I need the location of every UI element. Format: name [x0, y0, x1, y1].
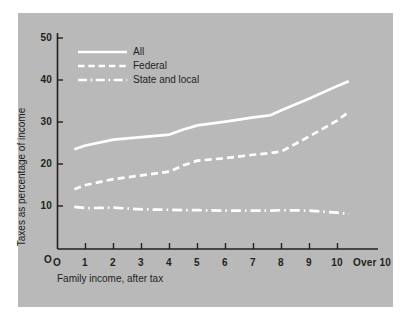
x-tick-label-3: 3 — [138, 258, 144, 268]
y-tick-label-10: 10 — [32, 201, 52, 211]
y-axis-title: Taxes as percentage of income — [17, 102, 27, 252]
x-tick-label-5: 5 — [194, 258, 200, 268]
legend-label-state-and-local: State and local — [133, 75, 199, 85]
x-tick-label-over-10: Over 10 — [353, 258, 391, 268]
y-tick-label-30: 30 — [32, 117, 52, 127]
x-tick-label-10: 10 — [331, 258, 343, 268]
x-tick-label-1: 1 — [82, 258, 88, 268]
y-axis-ticks — [58, 38, 64, 206]
y-tick-label-0: O — [32, 255, 52, 265]
series-line-all — [74, 81, 348, 149]
x-tick-label-8: 8 — [278, 258, 284, 268]
x-tick-label-7: 7 — [250, 258, 256, 268]
legend-label-federal: Federal — [133, 61, 167, 71]
legend-swatches — [78, 52, 127, 80]
legend-label-all: All — [133, 47, 144, 57]
chart-plot-area — [0, 0, 412, 319]
x-tick-label-9: 9 — [306, 258, 312, 268]
x-tick-label-0: O — [53, 258, 61, 268]
series-line-state-and-local — [74, 207, 348, 214]
chart-figure: 50 40 30 20 10 O O 1 2 3 4 5 6 7 8 9 10 … — [0, 0, 412, 319]
y-tick-label-50: 50 — [32, 33, 52, 43]
y-tick-label-20: 20 — [32, 159, 52, 169]
x-tick-label-4: 4 — [166, 258, 172, 268]
y-tick-label-40: 40 — [32, 75, 52, 85]
x-tick-label-6: 6 — [222, 258, 228, 268]
x-axis-title: Family income, after tax — [57, 274, 163, 284]
x-axis-ticks — [86, 243, 338, 249]
x-tick-label-2: 2 — [110, 258, 116, 268]
